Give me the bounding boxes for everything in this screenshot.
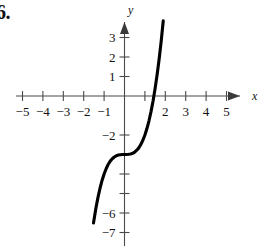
x-tick-label: 4	[203, 104, 210, 119]
y-tick-label: −6	[102, 206, 116, 221]
x-tick-label: −1	[97, 104, 111, 119]
x-tick-label: −3	[56, 104, 70, 119]
x-axis-arrow-icon	[228, 92, 240, 101]
x-tick-label: −2	[77, 104, 91, 119]
y-tick-label: 2	[109, 50, 116, 65]
cartesian-plot: −5−4−3−2−12345321−2−6−7 y x	[0, 0, 262, 246]
y-tick-label: 1	[109, 69, 116, 84]
figure-container: 6. −5−4−3−2−12345321−2−6−7 y x	[0, 0, 262, 246]
x-tick-label: 2	[162, 104, 169, 119]
x-tick-label: 5	[223, 104, 230, 119]
x-tick-label: 3	[182, 104, 189, 119]
x-axis-label: x	[251, 89, 258, 103]
x-tick-label: −4	[36, 104, 50, 119]
y-axis-label: y	[127, 3, 134, 17]
y-axis-group	[120, 22, 129, 246]
y-tick-label: 3	[109, 30, 116, 45]
cubic-curve	[93, 21, 163, 223]
y-tick-label: −7	[102, 225, 116, 240]
y-tick-label: −2	[102, 128, 116, 143]
y-axis-arrow-icon	[120, 22, 129, 34]
x-tick-label: −5	[16, 104, 30, 119]
